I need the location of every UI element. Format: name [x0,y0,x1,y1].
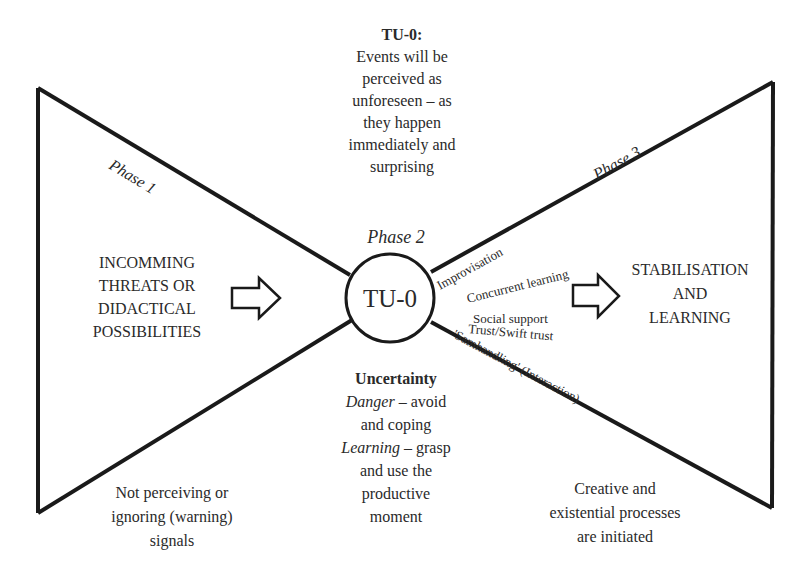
bottom-left-line: ignoring (warning) [111,508,232,526]
left-text-block: INCOMMING THREATS OR DIDACTICAL POSSIBIL… [93,254,201,340]
top-line: immediately and [348,136,455,154]
factor-concurrent-learning: Concurrent learning [465,266,570,306]
top-line: surprising [370,158,434,176]
top-title: TU-0: [382,26,423,43]
bottom-left-line: Not perceiving or [116,484,230,502]
uncertainty-line: Learning – grasp [340,439,450,457]
top-line: Events will be [356,48,448,65]
learning-label: Learning [340,439,400,457]
bottom-right-block: Creative and existential processes are i… [549,480,680,545]
right-line: STABILISATION [632,261,749,278]
left-line: THREATS OR [99,277,196,294]
phase3-label: Phase 3 [589,143,643,183]
right-arrow-icon [573,275,619,317]
danger-label: Danger [345,393,396,411]
phase2-label: Phase 2 [366,227,425,247]
top-line: perceived as [362,70,442,88]
right-line: AND [673,285,708,302]
right-line: LEARNING [649,309,731,326]
uncertainty-line: Danger – avoid [345,393,446,411]
top-line: unforeseen – as [352,92,452,109]
bottom-left-line: signals [150,532,194,550]
right-factors: Improvisation Concurrent learning Social… [434,244,582,406]
left-line: INCOMMING [99,254,195,271]
right-text-block: STABILISATION AND LEARNING [632,261,749,326]
left-arrow-icon [232,278,280,318]
uncertainty-block: Uncertainty Danger – avoid and coping Le… [340,370,450,525]
learning-rest: – grasp [400,439,451,457]
top-line: they happen [363,114,441,132]
danger-rest: – avoid [395,393,447,410]
top-text-block: TU-0: Events will be perceived as unfore… [348,26,455,176]
uncertainty-line: and use the [360,462,432,479]
bottom-right-line: are initiated [577,528,653,545]
left-line: POSSIBILITIES [93,323,201,340]
bottom-left-block: Not perceiving or ignoring (warning) sig… [111,484,232,550]
tu0-circle-label: TU-0 [363,285,417,312]
uncertainty-line: moment [370,508,423,525]
uncertainty-line: and coping [361,416,432,434]
uncertainty-line: productive [362,485,430,503]
phase1-label: Phase 1 [106,155,159,196]
bowtie-diagram: TU-0 TU-0: Events will be perceived as u… [0,0,801,573]
left-line: DIDACTICAL [98,300,196,317]
bottom-right-line: existential processes [549,504,680,522]
uncertainty-title: Uncertainty [355,370,437,388]
bottom-right-line: Creative and [574,480,655,497]
